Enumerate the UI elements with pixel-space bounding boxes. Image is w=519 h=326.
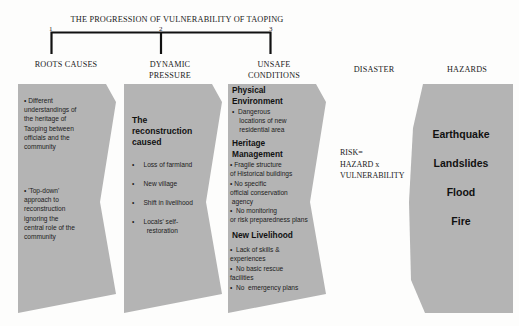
shape-unsafe-conditions: Physical Environment • Dangerous locatio… — [228, 84, 328, 313]
unsafe-livelihood-bullet-2: • No basic rescue facilities — [230, 264, 326, 282]
unsafe-heading-new-livelihood: New Livelihood — [232, 230, 324, 241]
unsafe-livelihood-bullet-1: • Lack of skills & experiences — [230, 245, 326, 263]
unsafe-heritage-bullet-2: • No specific official conservation agen… — [230, 179, 326, 207]
unsafe-physical-bullet-1: • Dangerous locations of new residential… — [232, 107, 324, 135]
unsafe-heading-physical-environment: Physical Environment — [232, 85, 320, 106]
shape-hazards: Earthquake Landslides Flood Fire — [409, 84, 513, 313]
bracket-connector — [50, 31, 272, 55]
unsafe-heritage-bullet-1: • Fragile structure of Historical buildi… — [230, 160, 326, 178]
dynamic-pressure-bullet-3: • Shift in livelihood — [132, 198, 220, 207]
dynamic-pressure-bullet-4: • Locals' self- restoration — [132, 217, 220, 235]
roots-causes-bullet-1: • Different understandings of the herita… — [24, 96, 104, 151]
unsafe-heading-heritage-management: Heritage Management — [232, 138, 320, 159]
risk-equation: RISK= HAZARD x VULNERABILITY — [340, 147, 404, 182]
hazard-item-landslides: Landslides — [409, 157, 513, 169]
column-header-roots-causes: ROOTS CAUSES — [18, 60, 114, 71]
dynamic-pressure-bullet-1: • Loss of farmland — [132, 160, 220, 169]
column-header-unsafe-conditions: UNSAFE CONDITIONS — [228, 60, 320, 81]
roots-causes-bullet-2: • 'Top-down' approach to reconstruction … — [24, 186, 104, 241]
vulnerability-progression-diagram: THE PROGRESSION OF VULNERABILITY OF TAOP… — [0, 0, 519, 326]
unsafe-heritage-bullet-3: • No monitoring or risk preparedness pla… — [230, 206, 328, 224]
diagram-title: THE PROGRESSION OF VULNERABILITY OF TAOP… — [42, 15, 312, 24]
shape-roots-causes: • Different understandings of the herita… — [18, 84, 118, 313]
hazard-item-flood: Flood — [409, 186, 513, 198]
unsafe-livelihood-bullet-3: • No emergency plans — [230, 283, 326, 292]
dynamic-pressure-bullet-2: • New village — [132, 179, 220, 188]
shape-dynamic-pressure: The reconstruction caused • Loss of farm… — [124, 84, 224, 313]
hazard-item-earthquake: Earthquake — [409, 128, 513, 140]
dynamic-pressure-heading: The reconstruction caused — [132, 115, 216, 148]
column-header-hazards: HAZARDS — [425, 65, 509, 76]
hazard-item-fire: Fire — [409, 215, 513, 227]
column-header-dynamic-pressure: DYNAMIC PRESSURE — [124, 60, 216, 81]
column-header-disaster: DISASTER — [333, 65, 415, 76]
